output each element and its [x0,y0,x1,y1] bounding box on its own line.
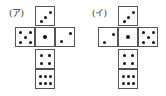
pip-icon [29,41,32,44]
pip-icon [127,75,130,78]
pip-icon [19,31,22,34]
pip-icon [103,41,106,44]
face-center-1 [118,27,138,47]
face-left-5 [15,27,35,47]
pip-icon [49,11,52,14]
pip-icon [69,32,72,35]
pip-icon [44,82,47,85]
face-top-3 [118,6,138,26]
pip-icon [60,40,63,43]
net-label-a: (ア) [9,6,24,19]
face-below-4 [118,49,138,69]
face-right-5 [138,27,158,47]
face-below-4 [35,49,55,69]
face-center-1 [35,27,55,47]
pip-icon [122,75,125,78]
pip-icon [152,31,155,34]
die-net-i: (イ) [83,0,166,96]
pip-icon [123,20,126,23]
face-right-2 [55,27,75,47]
pip-icon [152,41,155,44]
pip-icon [40,20,43,23]
pip-icon [127,16,130,19]
pip-icon [127,82,130,85]
pip-icon [142,31,145,34]
pip-icon [43,35,47,39]
pip-icon [131,62,134,65]
pip-icon [123,62,126,65]
pip-icon [142,41,145,44]
pip-icon [123,54,126,57]
face-left-2 [98,27,118,47]
face-top-3 [35,6,55,26]
pip-icon [48,54,51,57]
pip-icon [112,33,115,36]
pip-icon [39,82,42,85]
pip-icon [24,36,27,39]
pip-icon [131,54,134,57]
pip-icon [147,36,150,39]
pip-icon [49,82,52,85]
pip-icon [122,82,125,85]
pip-icon [39,75,42,78]
pip-icon [49,75,52,78]
pip-icon [132,11,135,14]
pip-icon [132,82,135,85]
die-net-a: (ア) [0,0,83,96]
net-label-i: (イ) [92,6,107,19]
pip-icon [126,35,130,39]
pip-icon [19,41,22,44]
pip-icon [44,75,47,78]
pip-icon [132,75,135,78]
pip-icon [40,54,43,57]
face-below-6 [35,69,55,89]
pip-icon [40,62,43,65]
pip-icon [44,16,47,19]
face-below-6 [118,69,138,89]
pip-icon [48,62,51,65]
pip-icon [29,31,32,34]
